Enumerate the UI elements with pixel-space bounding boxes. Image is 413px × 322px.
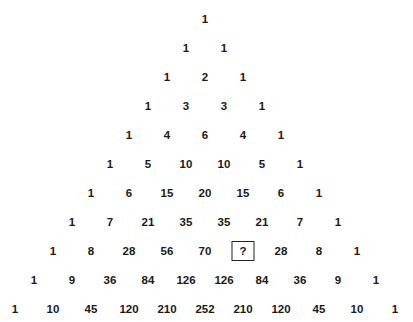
triangle-cell: 70 [199, 245, 212, 257]
triangle-cell: 45 [85, 303, 98, 315]
triangle-cell: 36 [294, 274, 307, 286]
triangle-cell: 1 [31, 274, 37, 286]
triangle-cell: 1 [259, 100, 265, 112]
triangle-cell: 5 [259, 158, 265, 170]
triangle-cell: 4 [164, 129, 170, 141]
triangle-cell: 10 [47, 303, 60, 315]
missing-value-box: ? [231, 241, 254, 261]
triangle-cell: 15 [237, 187, 250, 199]
triangle-cell: 1 [240, 71, 246, 83]
triangle-cell: 7 [297, 216, 303, 228]
triangle-cell: 28 [123, 245, 136, 257]
triangle-cell: 10 [180, 158, 193, 170]
triangle-cell: 1 [354, 245, 360, 257]
triangle-cell: 35 [218, 216, 231, 228]
triangle-cell: 20 [199, 187, 212, 199]
triangle-cell: 1 [392, 303, 398, 315]
triangle-cell: 8 [316, 245, 322, 257]
triangle-cell: 1 [202, 13, 208, 25]
triangle-cell: 126 [214, 274, 233, 286]
triangle-cell: 21 [142, 216, 155, 228]
triangle-cell: 1 [126, 129, 132, 141]
triangle-cell: 6 [202, 129, 208, 141]
triangle-cell: 6 [278, 187, 284, 199]
triangle-cell: 7 [107, 216, 113, 228]
triangle-cell: 3 [221, 100, 227, 112]
triangle-cell: 36 [104, 274, 117, 286]
triangle-cell: 5 [145, 158, 151, 170]
triangle-cell: 1 [221, 42, 227, 54]
triangle-cell: 126 [176, 274, 195, 286]
triangle-cell: 8 [88, 245, 94, 257]
triangle-cell: 84 [142, 274, 155, 286]
triangle-cell: 1 [145, 100, 151, 112]
triangle-cell: 10 [351, 303, 364, 315]
triangle-cell: 9 [335, 274, 341, 286]
triangle-cell: 1 [164, 71, 170, 83]
triangle-cell: 1 [12, 303, 18, 315]
triangle-cell: 28 [275, 245, 288, 257]
triangle-cell: 1 [50, 245, 56, 257]
triangle-cell: 252 [195, 303, 214, 315]
triangle-cell: 45 [313, 303, 326, 315]
triangle-cell: 1 [88, 187, 94, 199]
triangle-cell: 1 [316, 187, 322, 199]
triangle-cell: 1 [183, 42, 189, 54]
triangle-cell: 210 [157, 303, 176, 315]
triangle-cell: 21 [256, 216, 269, 228]
triangle-cell: 4 [240, 129, 246, 141]
triangle-cell: 1 [373, 274, 379, 286]
triangle-cell: 1 [107, 158, 113, 170]
triangle-cell: 120 [119, 303, 138, 315]
triangle-cell: 9 [69, 274, 75, 286]
triangle-cell: 15 [161, 187, 174, 199]
triangle-cell: 3 [183, 100, 189, 112]
pascal-triangle: 1111211331146411510105116152015611721353… [0, 0, 413, 322]
triangle-cell: 1 [297, 158, 303, 170]
triangle-cell: 6 [126, 187, 132, 199]
triangle-cell: 120 [271, 303, 290, 315]
triangle-cell: 210 [233, 303, 252, 315]
triangle-cell: 10 [218, 158, 231, 170]
triangle-cell: 1 [69, 216, 75, 228]
triangle-cell: 1 [278, 129, 284, 141]
triangle-cell: 84 [256, 274, 269, 286]
triangle-cell: 56 [161, 245, 174, 257]
triangle-cell: 2 [202, 71, 208, 83]
triangle-cell: 1 [335, 216, 341, 228]
triangle-cell: 35 [180, 216, 193, 228]
